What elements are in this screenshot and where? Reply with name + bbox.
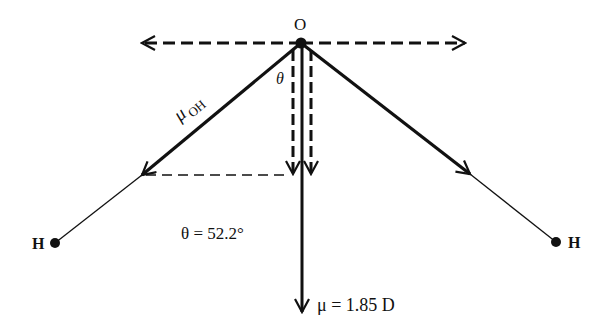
net-dipole-label: μ = 1.85 D (317, 295, 395, 315)
theta-symbol: θ (276, 70, 284, 87)
mu-subscript: OH (185, 97, 209, 121)
oxygen-atom-dot (296, 38, 307, 49)
hydrogen-right-label: H (568, 234, 581, 251)
water-dipole-diagram: O H H μ OH θ θ = 52.2° μ = 1.85 D (0, 0, 611, 333)
bond-right-line (470, 174, 556, 242)
hydrogen-left-dot (50, 238, 60, 248)
hydrogen-right-dot (551, 237, 561, 247)
bond-dipole-left-arrow (142, 43, 301, 175)
bond-left-line (55, 175, 142, 243)
bond-dipole-right-arrow (301, 43, 470, 174)
angle-value-label: θ = 52.2° (181, 224, 244, 243)
oxygen-label: O (294, 15, 306, 34)
hydrogen-left-label: H (32, 235, 45, 252)
